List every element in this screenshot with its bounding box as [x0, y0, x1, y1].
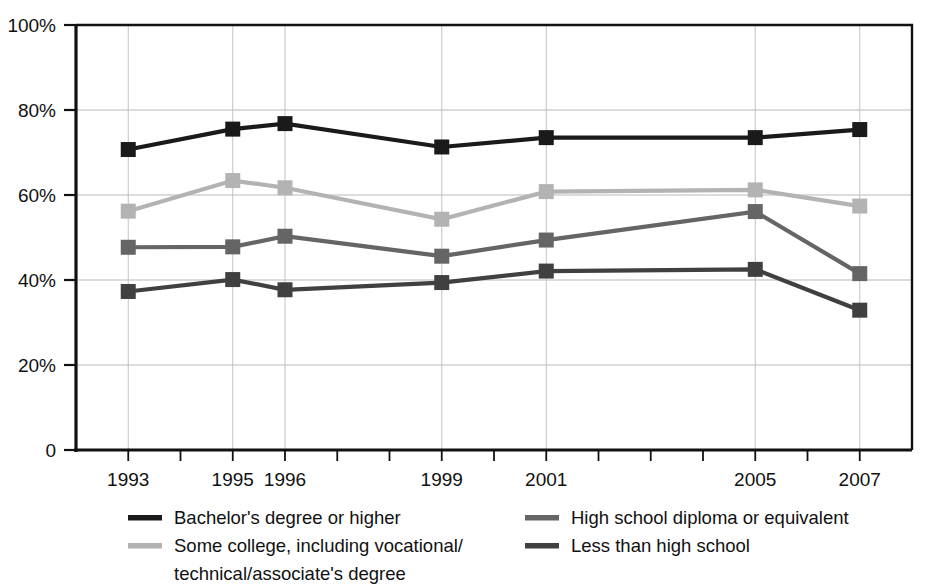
- data-point-1-2005: [748, 182, 763, 197]
- legend-entry-3[interactable]: High school diploma or equivalent: [525, 507, 849, 528]
- line-chart: 020%40%60%80%100% 1993199519961999200120…: [0, 0, 930, 588]
- legend-label-2: technical/associate's degree: [174, 563, 406, 584]
- data-point-1-1999: [434, 212, 449, 227]
- legend-swatch-1: [128, 543, 162, 549]
- data-point-0-2007: [852, 122, 867, 137]
- chart-legend: Bachelor's degree or higherSome college,…: [128, 507, 849, 584]
- data-point-2-2001: [539, 233, 554, 248]
- data-point-1-1996: [278, 180, 293, 195]
- data-point-0-2005: [748, 130, 763, 145]
- data-point-2-1996: [278, 229, 293, 244]
- x-tick-label-2005: 2005: [734, 469, 776, 490]
- vertical-gridlines: [128, 25, 860, 450]
- data-point-1-2001: [539, 184, 554, 199]
- data-point-1-1993: [121, 204, 136, 219]
- data-point-3-1996: [278, 282, 293, 297]
- legend-swatch-4: [525, 543, 559, 549]
- data-point-2-1999: [434, 249, 449, 264]
- legend-entry-1[interactable]: Some college, including vocational/: [128, 535, 464, 556]
- plot-frame: [76, 25, 912, 450]
- y-tick-label-20: 20%: [18, 355, 56, 376]
- legend-label-4: Less than high school: [571, 535, 750, 556]
- y-tick-label-60: 60%: [18, 185, 56, 206]
- data-point-0-1999: [434, 139, 449, 154]
- data-point-3-1999: [434, 275, 449, 290]
- x-tick-label-1995: 1995: [212, 469, 254, 490]
- data-point-2-1993: [121, 240, 136, 255]
- y-tick-label-80: 80%: [18, 100, 56, 121]
- data-point-3-1993: [121, 284, 136, 299]
- y-tick-label-100: 100%: [7, 15, 56, 36]
- x-tick-label-2007: 2007: [839, 469, 881, 490]
- y-axis-ticks: [64, 25, 76, 450]
- y-tick-label-40: 40%: [18, 270, 56, 291]
- legend-entry-4[interactable]: Less than high school: [525, 535, 750, 556]
- legend-label-0: Bachelor's degree or higher: [174, 507, 401, 528]
- x-tick-label-1993: 1993: [107, 469, 149, 490]
- data-point-2-1995: [225, 239, 240, 254]
- x-tick-label-2001: 2001: [525, 469, 567, 490]
- data-point-1-2007: [852, 199, 867, 214]
- legend-label-1: Some college, including vocational/: [174, 535, 464, 556]
- legend-label-3: High school diploma or equivalent: [571, 507, 849, 528]
- y-axis-tick-labels: 020%40%60%80%100%: [7, 15, 56, 461]
- data-point-3-2007: [852, 303, 867, 318]
- data-point-2-2007: [852, 266, 867, 281]
- legend-entry-2[interactable]: technical/associate's degree: [174, 563, 406, 584]
- x-tick-label-1999: 1999: [421, 469, 463, 490]
- data-point-1-1995: [225, 173, 240, 188]
- data-point-0-1996: [278, 116, 293, 131]
- x-tick-label-1996: 1996: [264, 469, 306, 490]
- y-tick-label-0: 0: [45, 440, 56, 461]
- legend-entry-0[interactable]: Bachelor's degree or higher: [128, 507, 401, 528]
- legend-swatch-0: [128, 515, 162, 521]
- data-point-0-1993: [121, 142, 136, 157]
- x-axis-ticks: [128, 450, 860, 461]
- data-point-0-2001: [539, 130, 554, 145]
- legend-swatch-3: [525, 515, 559, 521]
- chart-container: 020%40%60%80%100% 1993199519961999200120…: [0, 0, 930, 588]
- x-axis-tick-labels: 1993199519961999200120052007: [107, 469, 881, 490]
- data-point-3-2005: [748, 262, 763, 277]
- data-point-3-2001: [539, 264, 554, 279]
- data-point-0-1995: [225, 122, 240, 137]
- data-point-3-1995: [225, 272, 240, 287]
- data-point-2-2005: [748, 204, 763, 219]
